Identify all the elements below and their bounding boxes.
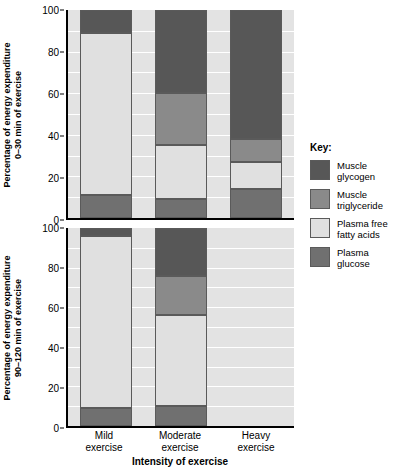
bars-bottom xyxy=(68,228,294,426)
x-axis-title: Intensity of exercise xyxy=(66,456,294,467)
legend-label-line: glucose xyxy=(337,258,370,269)
x-tick-label-line: exercise xyxy=(161,442,198,453)
legend-swatch-icon xyxy=(310,189,330,209)
bar-segment-muscle-glycogen xyxy=(80,228,132,236)
y-axis-ticks-bottom: 020406080100 xyxy=(26,228,64,428)
y-tick-mark xyxy=(60,10,64,11)
bar-segment-plasma-glucose xyxy=(155,199,207,218)
legend-title: Key: xyxy=(310,142,402,153)
x-axis-tick-labels: MildexerciseModerateexerciseHeavyexercis… xyxy=(66,430,294,456)
y-tick-label: 100 xyxy=(42,5,59,16)
x-tick-label: Moderateexercise xyxy=(142,430,218,454)
bar-segment-plasma-glucose xyxy=(155,406,207,426)
bar-moderate-exercise xyxy=(155,10,207,218)
legend-swatch-icon xyxy=(310,247,330,267)
x-tick-label: Heavyexercise xyxy=(218,430,294,454)
plot-area-bottom xyxy=(66,228,294,428)
y-tick-label: 20 xyxy=(48,173,59,184)
y-tick-label: 40 xyxy=(48,343,59,354)
bar-segment-muscle-glycogen xyxy=(80,10,132,33)
bar-segment-plasma-free-fatty-acids xyxy=(230,162,282,189)
y-tick-mark xyxy=(60,428,64,429)
y-tick-mark xyxy=(60,52,64,53)
bar-heavy-exercise xyxy=(230,10,282,218)
y-tick-label: 80 xyxy=(48,47,59,58)
legend-swatch-icon xyxy=(310,218,330,238)
bar-mild-exercise xyxy=(80,228,132,426)
y-tick-mark xyxy=(60,388,64,389)
x-tick-label-line: Mild xyxy=(95,430,113,441)
x-tick-label-line: exercise xyxy=(85,442,122,453)
plot-area-top xyxy=(66,10,294,220)
legend-label-line: Plasma xyxy=(337,247,369,258)
bar-segment-plasma-free-fatty-acids xyxy=(155,145,207,199)
x-tick-label-line: Heavy xyxy=(242,430,270,441)
bar-segment-muscle-glycogen xyxy=(230,10,282,139)
y-tick-mark xyxy=(60,308,64,309)
legend-item-muscle-triglyceride[interactable]: Muscletriglyceride xyxy=(310,189,402,211)
y-axis-ticks-top: 020406080100 xyxy=(26,10,64,220)
legend-item-plasma-glucose[interactable]: Plasmaglucose xyxy=(310,247,402,269)
y-tick-label: 80 xyxy=(48,263,59,274)
bar-segment-plasma-glucose xyxy=(80,408,132,426)
charts-column: Percentage of energy expenditure 0–30 mi… xyxy=(0,0,300,473)
x-tick-label-line: Moderate xyxy=(159,430,201,441)
y-tick-label: 60 xyxy=(48,303,59,314)
y-tick-mark xyxy=(60,136,64,137)
legend-label: Muscleglycogen xyxy=(337,160,375,182)
y-tick-label: 20 xyxy=(48,383,59,394)
bar-segment-muscle-glycogen xyxy=(155,10,207,93)
y-tick-label: 40 xyxy=(48,131,59,142)
legend-item-plasma-free-fatty-acids[interactable]: Plasma freefatty acids xyxy=(310,218,402,240)
y-axis-title-bottom-line2: 90–120 min of exercise xyxy=(13,279,23,377)
bar-heavy-exercise xyxy=(230,228,282,426)
bar-segment-plasma-free-fatty-acids xyxy=(155,315,207,406)
legend-label-line: Muscle xyxy=(337,189,367,200)
x-tick-label: Mildexercise xyxy=(66,430,142,454)
legend-item-muscle-glycogen[interactable]: Muscleglycogen xyxy=(310,160,402,182)
legend-label-line: Plasma free xyxy=(337,218,388,229)
legend-label: Plasma freefatty acids xyxy=(337,218,388,240)
y-tick-mark xyxy=(60,94,64,95)
y-tick-mark xyxy=(60,228,64,229)
y-tick-mark xyxy=(60,268,64,269)
chart-panel-top: Percentage of energy expenditure 0–30 mi… xyxy=(0,10,300,220)
y-axis-title-top-line2: 0–30 min of exercise xyxy=(13,71,23,159)
legend-swatch-icon xyxy=(310,160,330,180)
legend-label-line: fatty acids xyxy=(337,229,380,240)
y-axis-title-top: Percentage of energy expenditure 0–30 mi… xyxy=(0,10,26,220)
y-tick-mark xyxy=(60,348,64,349)
legend-label-line: triglyceride xyxy=(337,200,383,211)
bar-segment-muscle-triglyceride xyxy=(230,139,282,162)
legend-label: Plasmaglucose xyxy=(337,247,370,269)
x-tick-label-line: exercise xyxy=(237,442,274,453)
y-tick-mark xyxy=(60,178,64,179)
bar-moderate-exercise xyxy=(155,228,207,426)
bar-segment-plasma-free-fatty-acids xyxy=(80,33,132,195)
y-axis-title-top-line1: Percentage of energy expenditure xyxy=(2,42,12,187)
bar-segment-muscle-glycogen xyxy=(155,228,207,276)
bar-mild-exercise xyxy=(80,10,132,218)
legend-label: Muscletriglyceride xyxy=(337,189,383,211)
bar-segment-plasma-glucose xyxy=(80,195,132,218)
bars-top xyxy=(68,10,294,218)
legend: Key: MuscleglycogenMuscletriglyceridePla… xyxy=(310,142,402,276)
bar-segment-muscle-triglyceride xyxy=(155,276,207,316)
y-tick-label: 100 xyxy=(42,223,59,234)
bar-segment-plasma-glucose xyxy=(230,189,282,218)
legend-label-line: Muscle xyxy=(337,160,367,171)
y-tick-label: 0 xyxy=(53,423,59,434)
y-tick-mark xyxy=(60,220,64,221)
legend-label-line: glycogen xyxy=(337,171,375,182)
y-axis-title-bottom-line1: Percentage of energy expenditure xyxy=(2,255,12,400)
chart-panel-bottom: Percentage of energy expenditure 90–120 … xyxy=(0,228,300,428)
y-axis-title-bottom: Percentage of energy expenditure 90–120 … xyxy=(0,228,26,428)
bar-segment-muscle-triglyceride xyxy=(155,93,207,145)
y-tick-label: 60 xyxy=(48,89,59,100)
bar-segment-plasma-free-fatty-acids xyxy=(80,236,132,408)
legend-rows: MuscleglycogenMuscletriglyceridePlasma f… xyxy=(310,160,402,269)
